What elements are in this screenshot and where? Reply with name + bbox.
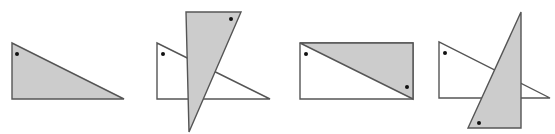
angle-marker-dot	[161, 52, 165, 56]
shaded-shape	[186, 12, 241, 132]
angle-marker-dot	[229, 17, 233, 21]
figure-1	[12, 43, 124, 99]
triangle-figures-diagram	[0, 0, 555, 134]
angle-marker-dot	[304, 52, 308, 56]
angle-marker-dot	[477, 121, 481, 125]
shaded-shape	[12, 43, 124, 99]
figures-canvas	[0, 0, 555, 134]
angle-marker-dot	[443, 51, 447, 55]
figure-2	[157, 12, 270, 132]
angle-marker-dot	[15, 52, 19, 56]
figure-4	[439, 12, 550, 128]
figure-3	[300, 43, 413, 99]
angle-marker-dot	[405, 85, 409, 89]
